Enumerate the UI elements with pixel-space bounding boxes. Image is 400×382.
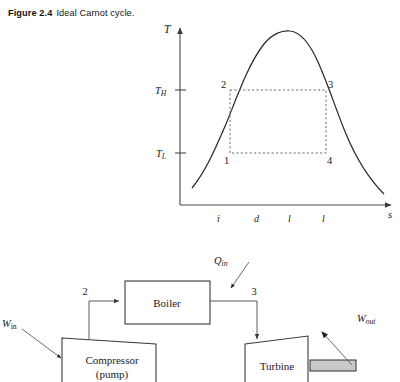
compressor-label-line2: (pump) [96,368,129,381]
q-in-arrow [231,262,249,288]
stream-label-2: 2 [82,286,87,297]
stream-label-3: 3 [251,286,256,297]
turbine-label: Turbine [260,360,295,372]
q-in-label: Qin [214,255,228,268]
w-in-arrow [22,329,61,358]
compressor-label-line1: Compressor [85,354,139,366]
cycle-schematic: Boiler Compressor (pump) Turbine 2 3 Qin… [0,0,400,382]
figure-container: Figure 2.4Ideal Carnot cycle. T s [0,0,400,382]
w-out-label: Wout [357,313,376,326]
pipe-boiler-to-turbine [210,301,257,339]
pipe-compressor-to-boiler [89,301,119,340]
boiler-label: Boiler [153,297,181,309]
turbine-body [245,336,308,382]
w-in-label: Win [2,318,17,331]
